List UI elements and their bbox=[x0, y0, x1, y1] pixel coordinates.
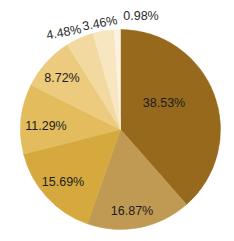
pie-slice-label: 15.69% bbox=[42, 175, 84, 189]
pie-chart-figure: 38.53%16.87%15.69%11.29%8.72%4.48%3.46%0… bbox=[0, 0, 234, 241]
pie-slice-label: 16.87% bbox=[111, 204, 153, 218]
pie-chart-canvas: 38.53%16.87%15.69%11.29%8.72%4.48%3.46%0… bbox=[0, 0, 234, 241]
pie-slice-label: 0.98% bbox=[123, 9, 158, 23]
pie-slice-label: 11.29% bbox=[25, 119, 66, 133]
pie-slice-label: 8.72% bbox=[44, 71, 79, 85]
pie-slice-label: 38.53% bbox=[143, 96, 185, 110]
clipped-footer-caption bbox=[0, 232, 234, 241]
